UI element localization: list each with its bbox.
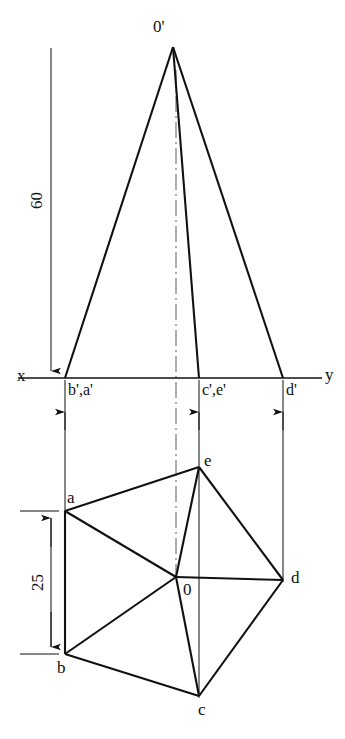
label-vertex-c: c <box>198 701 206 718</box>
label-vertex-a: a <box>67 489 75 506</box>
plan-edge-cd <box>199 580 283 696</box>
plan-radial-od <box>176 577 283 580</box>
label-center-o: 0 <box>183 581 192 598</box>
plan-radial-oa <box>65 511 176 577</box>
label-x-axis: x <box>17 367 26 384</box>
plan-edge-bc <box>65 654 199 696</box>
dimension-25-text: 25 <box>29 574 46 591</box>
front-edge-apex-ba <box>65 47 173 378</box>
dimension-60-text: 60 <box>28 192 45 209</box>
label-vertex-b: b <box>57 659 66 676</box>
front-edge-apex-d <box>173 47 283 378</box>
label-apex-front: 0' <box>153 18 165 35</box>
plan-edge-ea <box>65 467 199 511</box>
projection-drawing <box>0 0 345 739</box>
front-view <box>65 47 283 378</box>
plan-edge-de <box>199 467 283 580</box>
plan-radial-ob <box>65 577 176 654</box>
label-vertex-d: d <box>291 569 300 586</box>
label-vertex-e: e <box>204 452 212 469</box>
label-base-front-left: b',a' <box>68 382 93 398</box>
top-view <box>65 467 283 696</box>
plan-radial-oe <box>176 467 199 577</box>
front-edge-apex-ce <box>173 47 199 378</box>
label-y-axis: y <box>325 366 334 383</box>
projector-lines <box>65 380 283 698</box>
label-base-front-mid: c',e' <box>202 382 226 398</box>
technical-drawing-canvas: 0' x y b',a' c',e' d' a b c d e 0 60 25 <box>0 0 345 739</box>
label-base-front-right: d' <box>286 382 297 398</box>
